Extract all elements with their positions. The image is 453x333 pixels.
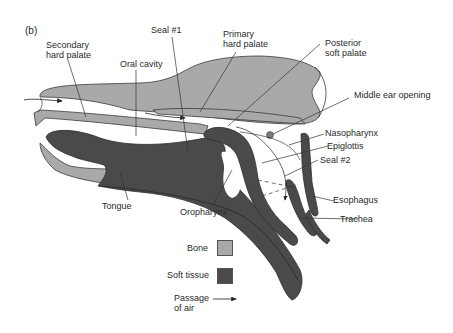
label-oral-cavity: Oral cavity	[120, 59, 163, 70]
label-primary-hard-palate-2: hard palate	[223, 39, 268, 50]
epiglottis	[301, 133, 318, 216]
label-primary-hard-palate-1: Primary	[223, 29, 254, 40]
label-trachea: Trachea	[340, 214, 373, 225]
label-oropharynx: Oropharynx	[180, 207, 227, 218]
legend-label-passage: Passage	[174, 293, 209, 304]
label-tongue: Tongue	[102, 201, 132, 212]
label-secondary-hard-palate-1: Secondary	[46, 40, 89, 51]
label-epiglottis: Epiglottis	[327, 141, 364, 152]
legend-swatch-bone	[217, 240, 233, 256]
label-seal-1: Seal #1	[151, 25, 182, 36]
label-posterior-soft-palate-2: soft palate	[325, 48, 367, 59]
panel-label: (b)	[25, 26, 37, 37]
label-secondary-hard-palate-2: hard palate	[46, 50, 91, 61]
label-nasopharynx: Nasopharynx	[325, 128, 378, 139]
label-posterior-soft-palate-1: Posterior	[325, 38, 361, 49]
legend-label-of-air: of air	[174, 303, 194, 314]
label-seal-2: Seal #2	[320, 155, 351, 166]
legend-label-bone: Bone	[187, 243, 208, 254]
label-middle-ear-opening: Middle ear opening	[354, 90, 431, 101]
anatomy-figure: (b) Secondary hard palate Oral cavity Se…	[0, 0, 453, 333]
airflow-arrow-nose	[24, 99, 62, 101]
label-esophagus: Esophagus	[333, 195, 378, 206]
legend-label-soft-tissue: Soft tissue	[167, 270, 209, 281]
legend-swatch-soft-tissue	[217, 268, 233, 284]
